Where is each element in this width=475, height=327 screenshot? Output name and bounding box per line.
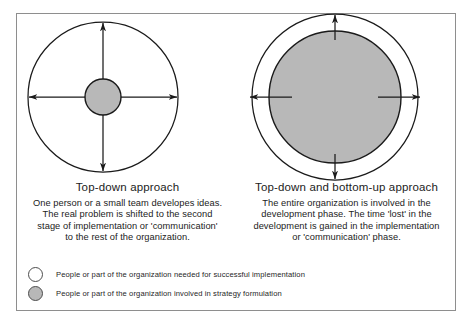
legend-open-circle-icon	[28, 267, 43, 282]
caption-line: The real problem is shifted to the secon…	[22, 209, 233, 220]
caption-body-top-down: One person or a small team developes ide…	[22, 198, 233, 244]
caption-line: development is gained in the implementat…	[241, 221, 452, 232]
legend: People or part of the organization neede…	[28, 265, 428, 303]
diagram-top-down-bottom-up	[250, 14, 420, 180]
legend-item-label: People or part of the organization invol…	[56, 289, 282, 298]
top-down-inner-circle	[85, 79, 121, 115]
captions: Top-down approach One person or a small …	[18, 180, 456, 244]
caption-line: The entire organization is involved in t…	[241, 198, 452, 209]
caption-title-top-down: Top-down approach	[22, 180, 233, 195]
caption-line: stage of implementation or 'communicatio…	[22, 221, 233, 232]
legend-item: People or part of the organization neede…	[28, 265, 428, 284]
diagram-area	[0, 0, 475, 185]
caption-top-down: Top-down approach One person or a small …	[18, 180, 237, 244]
caption-line: or 'communication' phase.	[241, 232, 452, 243]
caption-line: development phase. The time 'lost' in th…	[241, 209, 452, 220]
legend-item-label: People or part of the organization neede…	[56, 270, 305, 279]
circles-diagram-svg	[0, 0, 475, 185]
caption-title-bottom-up: Top-down and bottom-up approach	[241, 180, 452, 195]
diagram-top-down	[28, 22, 178, 172]
caption-top-down-bottom-up: Top-down and bottom-up approach The enti…	[237, 180, 456, 244]
figure-root: Top-down approach One person or a small …	[0, 0, 475, 327]
legend-item: People or part of the organization invol…	[28, 284, 428, 303]
caption-line: to the rest of the organization.	[22, 232, 233, 243]
caption-line: One person or a small team developes ide…	[22, 198, 233, 209]
caption-body-bottom-up: The entire organization is involved in t…	[241, 198, 452, 244]
legend-filled-circle-icon	[28, 286, 43, 301]
